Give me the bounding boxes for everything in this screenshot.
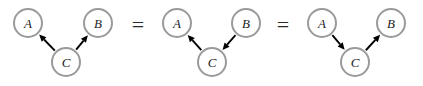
- node-graph-2-b[interactable]: B: [232, 9, 260, 37]
- node-label: C: [351, 55, 360, 70]
- node-graph-1-a[interactable]: A: [14, 9, 42, 37]
- node-label: A: [23, 16, 32, 31]
- diagram-canvas: ABCABCABC ==: [0, 0, 423, 86]
- node-label: C: [62, 55, 71, 70]
- edge-shaft: [192, 40, 201, 50]
- edge-shaft: [366, 40, 376, 50]
- edge-shaft: [76, 41, 83, 50]
- node-label: A: [172, 16, 181, 31]
- edge-c-to-a: [188, 35, 202, 50]
- node-graph-3-c[interactable]: C: [341, 48, 369, 76]
- nodes-layer: ABCABCABC: [14, 9, 405, 76]
- node-label: A: [317, 16, 326, 31]
- edge-c-to-b: [366, 35, 380, 50]
- separators-layer: ==: [132, 12, 289, 37]
- node-graph-1-b[interactable]: B: [84, 9, 112, 37]
- node-graph-1-c[interactable]: C: [52, 48, 80, 76]
- causal-graph-figure: ABCABCABC ==: [0, 0, 423, 86]
- equals-separator: =: [277, 12, 289, 37]
- node-label: C: [208, 55, 217, 70]
- node-graph-2-c[interactable]: C: [198, 48, 226, 76]
- edge-a-to-c: [332, 35, 344, 50]
- edge-c-to-b: [76, 35, 88, 49]
- edge-shaft: [227, 35, 235, 45]
- node-label: B: [94, 16, 102, 31]
- edge-b-to-c: [223, 35, 236, 50]
- equals-separator: =: [132, 12, 144, 37]
- node-graph-3-a[interactable]: A: [308, 9, 336, 37]
- edge-shaft: [44, 39, 55, 50]
- node-label: B: [387, 16, 395, 31]
- node-label: B: [242, 16, 250, 31]
- edge-shaft: [332, 35, 340, 44]
- node-graph-3-b[interactable]: B: [377, 9, 405, 37]
- edge-c-to-a: [39, 34, 55, 50]
- node-graph-2-a[interactable]: A: [163, 9, 191, 37]
